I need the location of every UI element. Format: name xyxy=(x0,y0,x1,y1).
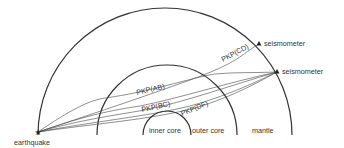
seismic-ray-diagram: PKP(CD) PKP(AB) PKP(BC) PKP(DF) inner co… xyxy=(0,0,344,148)
layer-label-outer-core: outer core xyxy=(192,126,224,135)
seismometer-label-2: seismometer xyxy=(282,67,324,76)
ray-label-pkp-df: PKP(DF) xyxy=(179,99,209,118)
earth-surface-arc xyxy=(38,8,292,135)
star-icon: ★ xyxy=(35,128,42,137)
ray-label-pkp-bc: PKP(BC) xyxy=(141,99,171,114)
earthquake-label: earthquake xyxy=(14,138,50,147)
ray-label-pkp-ab: PKP(AB) xyxy=(135,82,165,97)
triangle-icon xyxy=(257,41,262,46)
layer-label-mantle: mantle xyxy=(252,126,274,135)
seismometer-label-1: seismometer xyxy=(264,39,306,48)
layer-label-inner-core: inner core xyxy=(149,126,181,135)
